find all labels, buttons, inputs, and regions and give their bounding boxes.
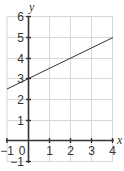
line-chart: 6 5 4 3 2 1 −1 −1 0 1 2 3 4 y x <box>0 0 124 171</box>
svg-text:0: 0 <box>19 144 26 158</box>
svg-text:6: 6 <box>17 10 24 24</box>
x-axis-label: x <box>116 133 123 147</box>
svg-text:4: 4 <box>109 144 116 158</box>
svg-text:4: 4 <box>17 52 24 66</box>
svg-text:3: 3 <box>88 144 95 158</box>
svg-text:1: 1 <box>17 114 24 128</box>
svg-text:2: 2 <box>17 93 24 107</box>
svg-text:3: 3 <box>17 72 24 86</box>
svg-text:1: 1 <box>46 144 53 158</box>
svg-text:5: 5 <box>17 31 24 45</box>
svg-text:−1: −1 <box>0 144 14 158</box>
svg-text:2: 2 <box>67 144 74 158</box>
y-axis-label: y <box>28 0 35 14</box>
